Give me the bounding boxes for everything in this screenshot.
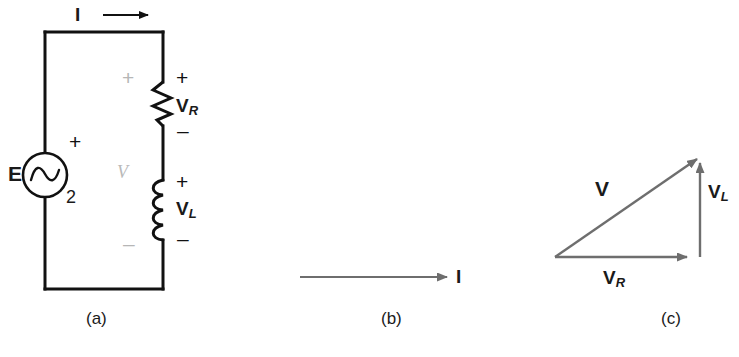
loop-voltage-label-ghost: V [117, 163, 128, 181]
phasor-vl-symbol: V [708, 181, 721, 202]
resistor-voltage-label: VR [176, 96, 198, 117]
loop-plus-sign-ghost: + [122, 67, 134, 88]
caption-panel-c: (c) [661, 310, 681, 327]
inductor-voltage-label: VL [176, 199, 197, 220]
source-label-e: E [8, 163, 22, 184]
source-plus-sign: + [69, 131, 81, 152]
inductor-minus-sign: – [177, 228, 189, 249]
loop-minus-sign-ghost: – [123, 233, 135, 254]
caption-panel-b: (b) [381, 310, 402, 327]
phasor-triangle-c [555, 159, 700, 257]
ac-source-symbol [23, 153, 67, 197]
phasor-vr-symbol: V [603, 267, 616, 288]
phasor-arrow-v [555, 159, 697, 257]
inductor-plus-sign: + [176, 171, 188, 192]
phasor-v-symbol: V [595, 177, 609, 200]
inductor-voltage-symbol: V [176, 198, 189, 219]
inductor-voltage-subscript: L [189, 206, 197, 221]
inductor-symbol [153, 180, 163, 240]
phasor-label-vr: VR [603, 268, 625, 289]
figure-canvas: I + E 2 + V – + VR – + VL – I V VL VR (a… [0, 0, 739, 357]
phasor-vr-subscript: R [616, 275, 625, 290]
resistor-minus-sign: – [177, 120, 189, 141]
figure-artwork [0, 0, 739, 357]
phasor-label-vl: VL [708, 182, 729, 203]
resistor-voltage-symbol: V [176, 95, 189, 116]
resistor-plus-sign: + [176, 67, 188, 88]
resistor-symbol [153, 82, 171, 126]
phasor-label-current-b: I [456, 267, 461, 286]
current-label-circuit: I [75, 5, 80, 24]
source-label-2: 2 [66, 188, 76, 206]
caption-panel-a: (a) [86, 310, 107, 327]
resistor-voltage-subscript: R [189, 103, 198, 118]
phasor-label-v: V [595, 178, 609, 199]
phasor-vl-subscript: L [721, 189, 729, 204]
